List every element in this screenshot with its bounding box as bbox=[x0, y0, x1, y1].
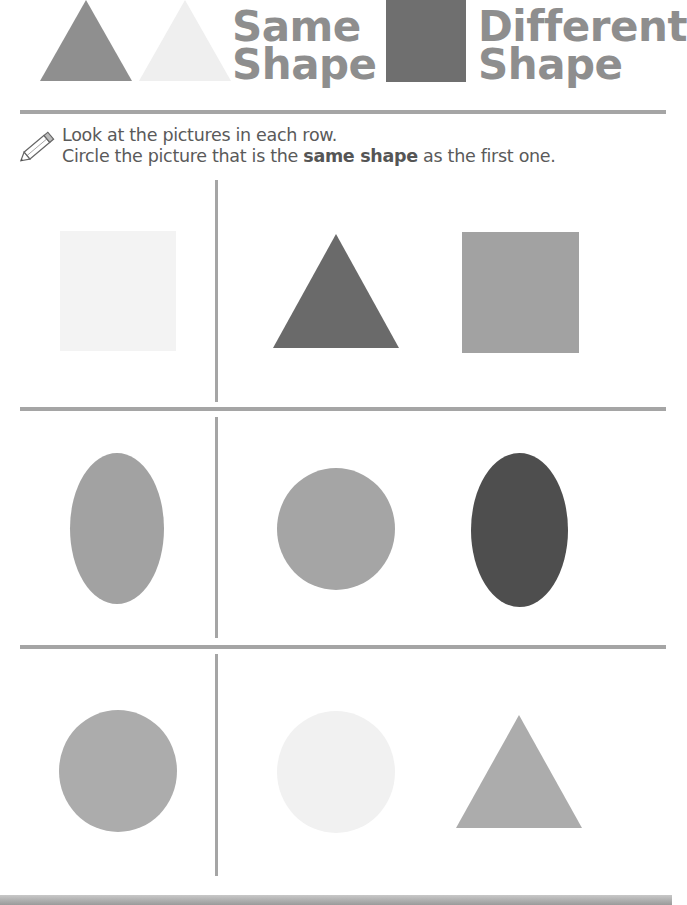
row-1-choice-square[interactable] bbox=[462, 232, 579, 353]
row-3-choice-circle[interactable] bbox=[277, 711, 395, 833]
row-2-choice-circle[interactable] bbox=[277, 468, 395, 590]
instruction-text: as the first one. bbox=[418, 146, 556, 166]
instruction-line-1: Look at the pictures in each row. bbox=[62, 125, 337, 146]
row-divider-2 bbox=[20, 645, 666, 649]
row-3-choice-triangle[interactable] bbox=[456, 715, 582, 828]
different-label-line2: Shape bbox=[478, 46, 623, 84]
row-1-separator bbox=[215, 180, 218, 402]
row-3-separator bbox=[215, 654, 218, 876]
instruction-text: Circle the picture that is the bbox=[62, 146, 303, 166]
header-divider bbox=[20, 110, 666, 114]
page-bottom-edge bbox=[0, 895, 672, 905]
row-3-target-circle bbox=[59, 710, 177, 832]
row-1-target-square bbox=[60, 231, 176, 351]
same-label-line2: Shape bbox=[232, 46, 377, 84]
row-2-choice-oval[interactable] bbox=[471, 453, 568, 607]
instruction-line-2: Circle the picture that is the same shap… bbox=[62, 146, 556, 167]
same-example-triangle-light bbox=[139, 0, 231, 82]
row-2-separator bbox=[215, 417, 218, 638]
row-2-target-oval bbox=[70, 453, 164, 604]
pencil-icon bbox=[18, 132, 58, 162]
row-divider-1 bbox=[20, 407, 666, 411]
different-example-square bbox=[386, 0, 466, 82]
instruction-emphasis: same shape bbox=[303, 146, 418, 166]
same-example-triangle-dark bbox=[40, 0, 132, 82]
row-1-choice-triangle[interactable] bbox=[273, 234, 399, 348]
